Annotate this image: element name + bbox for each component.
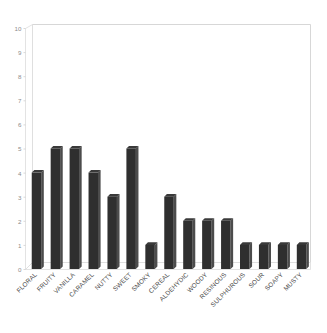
x-tick-label: SOAPY [263, 270, 284, 291]
bar-side-face [155, 242, 158, 269]
bar-front-face [107, 197, 116, 269]
bar-front-face [183, 221, 192, 269]
bar-side-face [117, 194, 120, 269]
y-tick-0: 0 [18, 266, 25, 273]
bar-side-face [136, 146, 139, 269]
y-tick-label: 6 [18, 121, 22, 128]
bar[interactable] [32, 170, 44, 269]
bar-side-face [306, 242, 309, 269]
y-tick-9: 9 [18, 49, 25, 56]
bar-side-face [41, 170, 44, 269]
bar-side-face [174, 194, 177, 269]
bar[interactable] [164, 194, 176, 269]
bar-front-face [221, 221, 230, 269]
bar[interactable] [297, 242, 309, 269]
y-tick-label: 7 [18, 97, 22, 104]
bar-chart: 0 1 2 3 4 5 6 7 8 9 10 FLORALFRUITYVANIL… [0, 0, 327, 333]
bars-group [32, 146, 309, 269]
y-axis: 0 1 2 3 4 5 6 7 8 9 10 [15, 25, 26, 273]
bar-side-face [60, 146, 63, 269]
y-tick-label: 10 [15, 25, 22, 32]
bar-front-face [278, 245, 287, 269]
bar-side-face [212, 218, 215, 269]
bar[interactable] [107, 194, 119, 269]
y-tick-3: 3 [18, 194, 25, 201]
chart-canvas: 0 1 2 3 4 5 6 7 8 9 10 FLORALFRUITYVANIL… [0, 0, 327, 333]
bar-front-face [51, 149, 60, 270]
y-tick-label: 8 [18, 73, 22, 80]
bar-side-face [268, 242, 271, 269]
bar[interactable] [202, 218, 214, 269]
bar-front-face [164, 197, 173, 269]
bar-side-face [193, 218, 196, 269]
y-tick-5: 5 [18, 145, 25, 152]
bar-side-face [98, 170, 101, 269]
y-tick-8: 8 [18, 73, 25, 80]
bar[interactable] [259, 242, 271, 269]
bar[interactable] [51, 146, 63, 269]
bar[interactable] [221, 218, 233, 269]
x-tick-label: SWEET [111, 271, 133, 293]
bar[interactable] [278, 242, 290, 269]
bar-front-face [32, 173, 41, 269]
bar-front-face [259, 245, 268, 269]
y-tick-label: 9 [18, 49, 22, 56]
x-tick-label: SULPHUROUS [209, 271, 246, 308]
bar-front-face [297, 245, 306, 269]
y-tick-1: 1 [18, 242, 25, 249]
bar-side-face [249, 242, 252, 269]
y-tick-7: 7 [18, 97, 25, 104]
bar[interactable] [126, 146, 138, 269]
bar[interactable] [240, 242, 252, 269]
y-tick-label: 3 [18, 194, 22, 201]
bar[interactable] [89, 170, 101, 269]
y-tick-label: 2 [18, 218, 22, 225]
left-wall [26, 25, 33, 270]
y-tick-label: 1 [18, 242, 22, 249]
bar[interactable] [145, 242, 157, 269]
bar-front-face [126, 149, 135, 270]
bar-side-face [287, 242, 290, 269]
y-tick-label: 5 [18, 145, 22, 152]
y-tick-10: 10 [15, 25, 26, 32]
bar-side-face [231, 218, 234, 269]
x-tick-label: MUSTY [282, 270, 304, 292]
bar-front-face [202, 221, 211, 269]
y-tick-label: 0 [18, 266, 22, 273]
bar-front-face [240, 245, 249, 269]
bar-front-face [70, 149, 79, 270]
bar[interactable] [70, 146, 82, 269]
bar[interactable] [183, 218, 195, 269]
y-tick-6: 6 [18, 121, 25, 128]
x-tick-label: FLORAL [15, 271, 38, 294]
bar-front-face [145, 245, 154, 269]
y-tick-4: 4 [18, 170, 25, 177]
x-axis-labels: FLORALFRUITYVANILLACARAMELNUTTYSWEETSMOK… [15, 270, 304, 308]
bar-side-face [79, 146, 82, 269]
y-tick-label: 4 [18, 170, 22, 177]
bar-front-face [89, 173, 98, 269]
y-tick-2: 2 [18, 218, 25, 225]
